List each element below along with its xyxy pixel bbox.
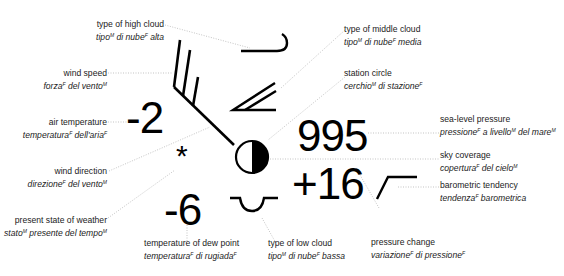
- label-sea-level-pressure: sea-level pressure pressioneF a livelloM…: [440, 114, 556, 137]
- label-sky-coverage: sky coverage coperturaF del cieloM: [440, 150, 517, 173]
- air-temperature-value: -2: [126, 96, 163, 140]
- label-high-cloud: type of high cloud tipoM di nubeF alta: [96, 19, 164, 42]
- weather-snow-symbol: *: [176, 141, 187, 171]
- label-wind-speed: wind speed forzaF del ventoM: [43, 68, 107, 91]
- station-model-diagram: -2 -6 995 +16 * type of high cloud tipoM…: [0, 0, 564, 276]
- label-present-weather: present state of weather statoM presente…: [4, 215, 107, 238]
- pressure-change-value: +16: [292, 162, 364, 206]
- label-station-circle: station circle cerchioM di stazioneF: [344, 68, 422, 91]
- label-dew-point: temperature of dew point temperaturaF di…: [144, 238, 239, 261]
- label-barometric-tendency: barometric tendency tendenzaF barometric…: [440, 180, 526, 203]
- label-middle-cloud: type of middle cloud tipoM di nubeF medi…: [344, 24, 421, 47]
- label-air-temperature: air temperature temperaturaF dell'ariaF: [23, 117, 107, 140]
- dew-point-value: -6: [164, 188, 201, 232]
- pressure-value: 995: [297, 114, 367, 158]
- label-low-cloud: type of low cloud tipoM di nubeF bassa: [268, 238, 345, 261]
- label-wind-direction: wind direction direzioneF del ventoM: [28, 166, 107, 189]
- label-pressure-change: pressure change variazioneF di pressione…: [371, 237, 465, 260]
